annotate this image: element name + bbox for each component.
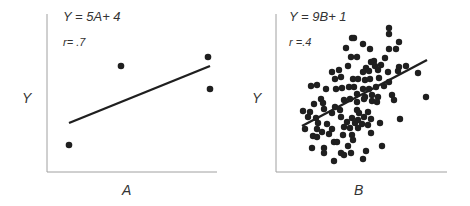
data-point (367, 76, 373, 82)
data-point (324, 121, 330, 127)
data-point (311, 101, 317, 107)
data-point (345, 63, 351, 69)
chart-a-regression-line (69, 66, 210, 123)
data-point (331, 158, 337, 164)
data-point (314, 134, 320, 140)
data-point (396, 39, 402, 45)
chart-b-points (300, 25, 429, 164)
scatter-plots-canvas (0, 0, 470, 206)
data-point (376, 75, 382, 81)
data-point (340, 132, 346, 138)
data-point (323, 86, 329, 92)
data-point (361, 96, 367, 102)
data-point (368, 130, 374, 136)
chart-b-x-label: B (354, 183, 363, 197)
data-point (386, 46, 392, 52)
data-point (369, 92, 375, 98)
data-point (382, 55, 388, 61)
data-point (363, 148, 369, 154)
data-point (360, 156, 366, 162)
chart-a-points (66, 54, 214, 149)
chart-a-correlation: r= .7 (63, 37, 85, 48)
data-point (391, 97, 397, 103)
data-point (356, 110, 362, 116)
data-point (360, 69, 366, 75)
data-point (333, 86, 339, 92)
data-point (377, 120, 383, 126)
data-point (397, 116, 403, 122)
chart-b-correlation: r =.4 (289, 37, 311, 48)
data-point (367, 46, 373, 52)
chart-b-y-label: Y (252, 91, 261, 105)
data-point (360, 41, 366, 47)
data-point (351, 35, 357, 41)
data-point (379, 143, 385, 149)
data-point (118, 63, 125, 70)
data-point (300, 108, 306, 114)
data-point (338, 114, 344, 120)
data-point (339, 85, 345, 91)
data-point (345, 143, 351, 149)
data-point (332, 76, 338, 82)
data-point (207, 86, 214, 93)
data-point (341, 152, 347, 158)
data-point (361, 114, 367, 120)
data-point (305, 114, 311, 120)
data-point (329, 69, 335, 75)
data-point (334, 139, 340, 145)
data-point (343, 45, 349, 51)
data-point (365, 109, 371, 115)
data-point (365, 122, 371, 128)
data-point (351, 84, 357, 90)
chart-b-equation: Y = 9B+ 1 (289, 10, 347, 23)
data-point (415, 70, 421, 76)
data-point (354, 54, 360, 60)
data-point (393, 46, 399, 52)
data-point (314, 82, 320, 88)
data-point (321, 150, 327, 156)
data-point (347, 125, 353, 131)
data-point (326, 131, 332, 137)
data-point (368, 116, 374, 122)
data-point (205, 54, 212, 61)
data-point (385, 69, 391, 75)
data-point (366, 68, 372, 74)
chart-a-x-label: A (122, 183, 131, 197)
data-point (386, 31, 392, 37)
data-point (348, 54, 354, 60)
data-point (321, 106, 327, 112)
data-point (319, 129, 325, 135)
data-point (386, 25, 392, 31)
data-point (350, 137, 356, 143)
data-point (348, 150, 354, 156)
data-point (320, 100, 326, 106)
data-point (375, 67, 381, 73)
data-point (360, 86, 366, 92)
chart-a-y-label: Y (22, 91, 31, 105)
data-point (423, 94, 429, 100)
chart-a-equation: Y = 5A+ 4 (63, 10, 121, 23)
data-point (336, 67, 342, 73)
data-point (315, 120, 321, 126)
data-point (341, 124, 347, 130)
data-point (355, 76, 361, 82)
data-point (374, 99, 380, 105)
data-point (309, 145, 315, 151)
data-point (354, 99, 360, 105)
data-point (338, 74, 344, 80)
data-point (403, 63, 409, 69)
data-point (308, 83, 314, 89)
data-point (355, 125, 361, 131)
data-point (66, 142, 73, 149)
